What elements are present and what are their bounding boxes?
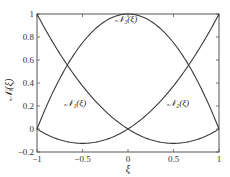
x-tick-label: 1 — [217, 154, 222, 164]
series-label-2: 𝒩₂(ξ) — [167, 98, 189, 108]
x-axis-ticks: −1−0.500.51 — [32, 14, 221, 164]
x-axis-label: ξ — [126, 163, 131, 175]
series-labels: 𝒩₁(ξ)𝒩₂(ξ)𝒩₃(ξ) — [64, 14, 189, 108]
y-tick-label: 0.2 — [23, 101, 34, 111]
series-lines — [37, 14, 219, 143]
y-tick-label: 0.6 — [23, 55, 35, 65]
series-label-3: 𝒩₃(ξ) — [115, 14, 137, 24]
series-line-2 — [37, 14, 219, 143]
y-tick-label: 1 — [30, 9, 35, 19]
plot-axes — [37, 14, 219, 152]
y-tick-label: 0 — [30, 124, 35, 134]
series-line-1 — [37, 14, 219, 143]
y-tick-label: 0.8 — [23, 32, 35, 42]
series-label-1: 𝒩₁(ξ) — [64, 98, 86, 108]
y-tick-label: −0.2 — [18, 147, 34, 157]
plot-frame — [37, 14, 219, 152]
x-tick-label: −0.5 — [74, 154, 91, 164]
x-tick-label: 0.5 — [168, 154, 180, 164]
series-line-3 — [37, 14, 219, 129]
y-tick-label: 0.4 — [23, 78, 35, 88]
y-axis-label: 𝒩ᵢ(ξ) — [3, 78, 15, 101]
shape-function-chart: −1−0.500.51 −0.200.20.40.60.81 𝒩₁(ξ)𝒩₂(ξ… — [0, 0, 230, 177]
